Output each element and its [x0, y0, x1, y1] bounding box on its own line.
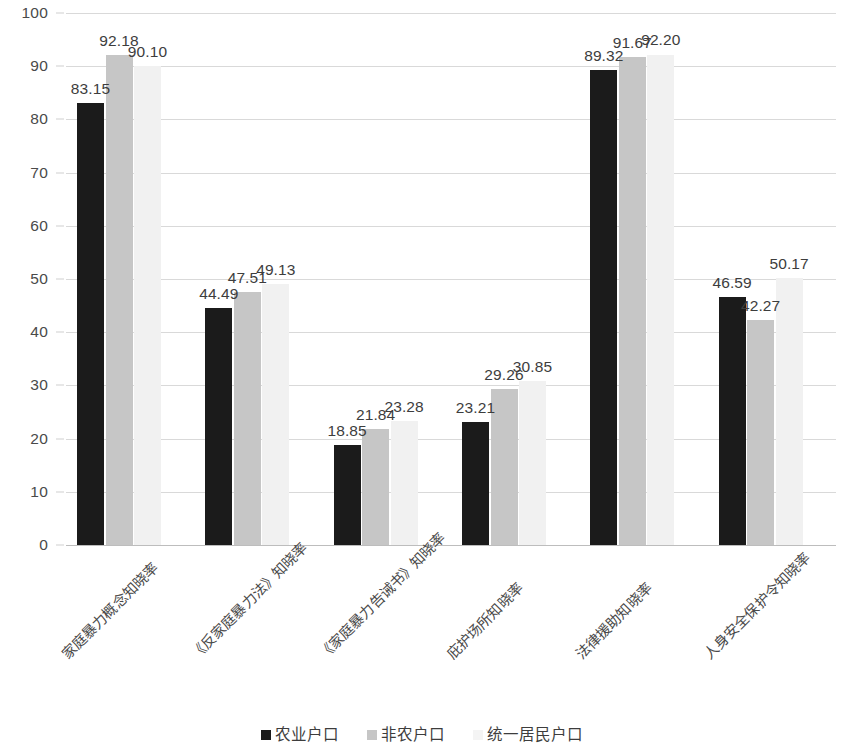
bar-value-label: 30.85 [513, 358, 552, 376]
x-axis-category-label: 法律援助知晓率 [570, 577, 656, 663]
y-axis-tick-mark [56, 119, 64, 120]
x-axis-category-label: 《反家庭暴力法》知晓率 [185, 537, 311, 663]
x-axis-category-labels: 家庭暴力概念知晓率《反家庭暴力法》知晓率《家庭暴力告诫书》知晓率庇护场所知晓率法… [0, 552, 844, 702]
bar [262, 284, 289, 545]
bar [462, 422, 489, 545]
y-axis-tick-mark [56, 332, 64, 333]
bar-value-label: 92.20 [641, 31, 680, 49]
bar-value-label: 90.10 [128, 43, 167, 61]
bar [134, 66, 161, 545]
y-axis-tick-label: 60 [30, 217, 48, 235]
y-axis-tick-label: 90 [30, 57, 48, 75]
y-axis-tick-mark [56, 385, 64, 386]
bar [77, 103, 104, 545]
legend-swatch-icon [367, 730, 377, 740]
bar-value-label: 50.17 [770, 255, 809, 273]
y-axis-tick-label: 10 [30, 483, 48, 501]
bar [776, 278, 803, 545]
y-axis-tick-mark [56, 225, 64, 226]
chart-legend: 农业户口非农户口统一居民户口 [0, 722, 844, 744]
legend-item[interactable]: 统一居民户口 [473, 722, 583, 744]
bar-chart: 0102030405060708090100 83.1592.1890.1044… [0, 0, 844, 748]
y-axis-tick-label: 80 [30, 110, 48, 128]
bar [747, 320, 774, 545]
legend-swatch-icon [261, 730, 271, 740]
y-axis-tick-mark [56, 172, 64, 173]
x-axis-category-label: 人身安全保护令知晓率 [698, 547, 814, 663]
bar [362, 429, 389, 545]
y-axis-tick-mark [56, 491, 64, 492]
x-axis-category-label: 家庭暴力概念知晓率 [56, 557, 162, 663]
bar [619, 57, 646, 545]
bar-value-label: 49.13 [256, 261, 295, 279]
bar [590, 70, 617, 545]
bar [391, 421, 418, 545]
gridline [66, 173, 836, 174]
legend-item[interactable]: 农业户口 [261, 722, 339, 744]
gridline [66, 13, 836, 14]
y-axis-tick-mark [56, 438, 64, 439]
x-axis-category-label: 《家庭暴力告诫书》知晓率 [313, 527, 449, 663]
plot-area: 83.1592.1890.1044.4947.5149.1318.8521.84… [66, 13, 836, 545]
legend-swatch-icon [473, 730, 483, 740]
gridline [66, 66, 836, 67]
bar-value-label: 46.59 [713, 274, 752, 292]
y-axis-tick-mark [56, 13, 64, 14]
x-axis-category-label: 庇护场所知晓率 [441, 577, 527, 663]
y-axis-tick-mark [56, 66, 64, 67]
bar-value-label: 23.28 [385, 398, 424, 416]
bar [719, 297, 746, 545]
y-axis-tick-label: 20 [30, 430, 48, 448]
bar [205, 308, 232, 545]
bar-value-label: 83.15 [71, 80, 110, 98]
y-axis: 0102030405060708090100 [0, 0, 66, 558]
y-axis-tick-label: 70 [30, 164, 48, 182]
y-axis-tick-label: 50 [30, 270, 48, 288]
bar [234, 292, 261, 545]
bar [519, 381, 546, 545]
legend-label: 农业户口 [275, 726, 339, 743]
gridline [66, 119, 836, 120]
gridline [66, 545, 836, 546]
bar-value-label: 18.85 [328, 422, 367, 440]
bar [334, 445, 361, 545]
gridline [66, 226, 836, 227]
bar [106, 55, 133, 545]
bar-value-label: 23.21 [456, 399, 495, 417]
y-axis-tick-label: 40 [30, 323, 48, 341]
legend-item[interactable]: 非农户口 [367, 722, 445, 744]
bar-value-label: 44.49 [199, 285, 238, 303]
bar-value-label: 42.27 [741, 297, 780, 315]
legend-label: 统一居民户口 [487, 726, 583, 743]
y-axis-tick-label: 100 [22, 4, 48, 22]
legend-label: 非农户口 [381, 726, 445, 743]
y-axis-tick-mark [56, 279, 64, 280]
y-axis-tick-label: 30 [30, 376, 48, 394]
bar [647, 55, 674, 546]
y-axis-tick-mark [56, 545, 64, 546]
